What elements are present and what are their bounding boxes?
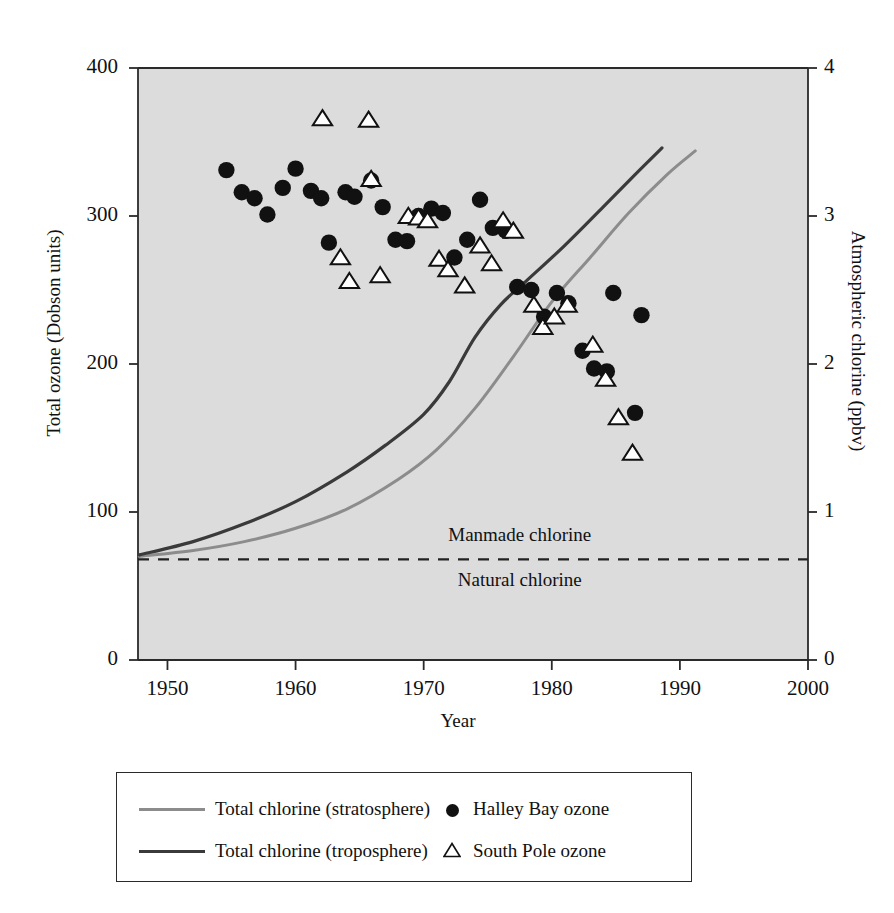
y-axis-left-title: Total ozone (Dobson units) <box>43 213 65 453</box>
data-point-halley-bay <box>509 279 525 295</box>
legend-label-south-pole: South Pole ozone <box>473 840 606 862</box>
x-tick-label: 1970 <box>384 676 464 701</box>
data-point-halley-bay <box>627 405 643 421</box>
y-axis-right-title: Atmospheric chlorine (ppbv) <box>847 211 869 471</box>
y-tick-label-left: 300 <box>54 202 118 227</box>
y-tick-label-right: 0 <box>824 646 874 671</box>
data-point-halley-bay <box>435 205 451 221</box>
legend-label-halley-bay: Halley Bay ozone <box>473 798 609 820</box>
legend-label-stratosphere: Total chlorine (stratosphere) <box>215 798 430 820</box>
data-point-halley-bay <box>459 231 475 247</box>
legend-item-halley-bay: Halley Bay ozone <box>439 789 609 829</box>
legend-label-troposphere: Total chlorine (troposphere) <box>215 840 428 862</box>
x-tick-label: 2000 <box>768 676 848 701</box>
x-tick-label: 1960 <box>256 676 336 701</box>
y-tick-label-right: 2 <box>824 350 874 375</box>
data-point-halley-bay <box>374 199 390 215</box>
data-point-halley-bay <box>321 234 337 250</box>
legend-item-troposphere: Total chlorine (troposphere) <box>139 831 428 871</box>
data-point-halley-bay <box>246 190 262 206</box>
y-tick-label-left: 400 <box>54 54 118 79</box>
natural-chlorine-label: Natural chlorine <box>425 569 615 591</box>
x-axis-title: Year <box>398 710 518 732</box>
data-point-halley-bay <box>313 190 329 206</box>
filled-circle-icon <box>439 801 465 818</box>
y-tick-label-left: 100 <box>54 498 118 523</box>
data-point-halley-bay <box>346 189 362 205</box>
y-tick-label-left: 200 <box>54 350 118 375</box>
data-point-halley-bay <box>523 282 539 298</box>
x-tick-label: 1990 <box>640 676 720 701</box>
y-tick-label-left: 0 <box>54 646 118 671</box>
data-point-halley-bay <box>472 192 488 208</box>
ozone-chlorine-figure: Total ozone (Dobson units) Atmospheric c… <box>0 0 894 913</box>
data-point-halley-bay <box>287 160 303 176</box>
troposphere-line-swatch <box>139 850 205 853</box>
chart-legend: Total chlorine (stratosphere) Total chlo… <box>116 772 692 882</box>
manmade-chlorine-label: Manmade chlorine <box>425 524 615 546</box>
stratosphere-line-swatch <box>139 808 205 811</box>
data-point-halley-bay <box>633 307 649 323</box>
data-point-halley-bay <box>275 180 291 196</box>
y-tick-label-right: 4 <box>824 54 874 79</box>
data-point-halley-bay <box>259 206 275 222</box>
open-triangle-icon <box>439 842 465 861</box>
y-tick-label-right: 3 <box>824 202 874 227</box>
data-point-halley-bay <box>399 233 415 249</box>
legend-item-south-pole: South Pole ozone <box>439 831 606 871</box>
x-tick-label: 1980 <box>512 676 592 701</box>
legend-item-stratosphere: Total chlorine (stratosphere) <box>139 789 430 829</box>
data-point-halley-bay <box>218 162 234 178</box>
data-point-halley-bay <box>605 285 621 301</box>
y-tick-label-right: 1 <box>824 498 874 523</box>
x-tick-label: 1950 <box>127 676 207 701</box>
